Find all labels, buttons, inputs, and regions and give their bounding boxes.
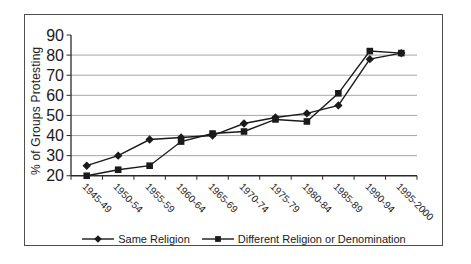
y-tick-label: 90 (46, 27, 64, 44)
series-diamond (83, 49, 406, 170)
diamond-marker (114, 151, 122, 159)
y-tick-label: 80 (46, 47, 64, 64)
diamond-marker (334, 101, 342, 109)
square-marker (209, 130, 216, 137)
diamond-marker (94, 235, 102, 243)
square-marker (272, 116, 279, 123)
diamond-marker (145, 135, 153, 143)
diamond-marker (303, 109, 311, 117)
legend: Same ReligionDifferent Religion or Denom… (71, 230, 417, 248)
square-legend-marker-icon (202, 234, 234, 244)
y-axis-title: % of Groups Protesting (28, 43, 44, 179)
y-tick-label: 60 (46, 87, 64, 104)
series-square (83, 48, 404, 179)
square-marker (115, 166, 122, 173)
diamond-legend-marker-icon (82, 234, 114, 244)
y-tick-label: 50 (46, 107, 64, 124)
series-line (87, 51, 402, 176)
square-marker (178, 138, 185, 145)
diamond-marker (240, 119, 248, 127)
y-tick-label: 40 (46, 127, 64, 144)
square-marker (367, 48, 374, 55)
diamond-marker (83, 161, 91, 169)
square-marker (241, 128, 248, 135)
square-marker (83, 172, 90, 179)
legend-label: Same Religion (118, 233, 190, 245)
square-marker (304, 118, 311, 125)
chart-frame: 2030405060708090 % of Groups Protesting … (24, 14, 443, 246)
y-tick-label: 30 (46, 147, 64, 164)
square-marker (215, 236, 221, 242)
y-tick-label: 70 (46, 67, 64, 84)
legend-label: Different Religion or Denomination (238, 233, 406, 245)
square-marker (398, 50, 405, 57)
legend-item: Same Religion (82, 233, 190, 245)
square-marker (146, 162, 153, 169)
series-line (87, 53, 402, 166)
legend-item: Different Religion or Denomination (202, 233, 406, 245)
square-marker (335, 90, 342, 97)
y-tick-label: 20 (46, 167, 64, 184)
